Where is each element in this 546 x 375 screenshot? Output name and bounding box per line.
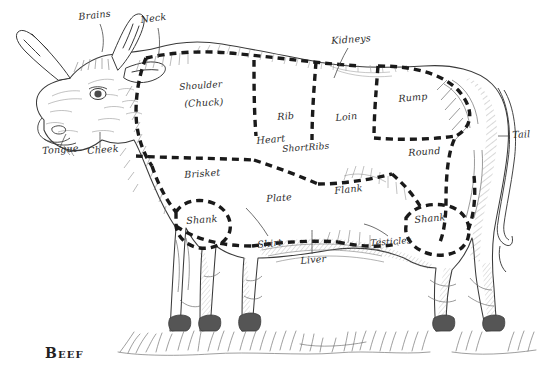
figure-caption: Beef: [45, 345, 84, 361]
cut-label-rump: Rump: [398, 91, 428, 103]
cut-label-round: Round: [408, 146, 441, 158]
cut-label-liver: Liver: [300, 254, 327, 266]
cut-label-loin: Loin: [335, 111, 358, 122]
cut-label-cheek: Cheek: [87, 144, 119, 156]
cut-label-shank-hind: Shank: [414, 212, 446, 224]
cut-label-tail: Tail: [512, 129, 531, 139]
cut-label-tongue: Tongue: [42, 143, 79, 155]
leader-brains: [100, 24, 103, 52]
cow-body-outline: [37, 42, 509, 331]
cut-label-brisket: Brisket: [184, 167, 221, 179]
cut-label-skirt: Skirt: [257, 237, 283, 249]
cow-illustration: [0, 0, 546, 375]
cut-label-chuck: (Chuck): [184, 97, 224, 109]
cut-label-plate: Plate: [266, 192, 292, 203]
beef-cuts-figure: BrainsNeckKidneysShoulder(Chuck)RibLoinR…: [0, 0, 546, 375]
cut-label-rib: Rib: [277, 111, 294, 122]
cut-label-shank-fore: Shank: [186, 214, 218, 226]
grass: [118, 331, 536, 355]
